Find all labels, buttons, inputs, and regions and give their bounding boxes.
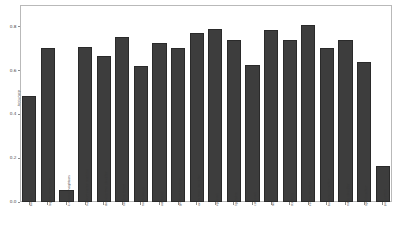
x-tick-label: decision tree classifier	[104, 171, 108, 206]
bar[interactable]	[134, 66, 148, 202]
x-tick-label: lightgbm	[234, 192, 238, 206]
bar-slot	[227, 5, 241, 202]
x-tick-label: gradient boosting	[178, 179, 182, 206]
x-tick-label: perceptron	[383, 189, 387, 206]
bar[interactable]	[283, 40, 297, 202]
bar[interactable]	[208, 29, 222, 202]
bar-slot	[152, 5, 166, 202]
x-tick-label: stacking	[290, 193, 294, 206]
bar-slot	[115, 5, 129, 202]
x-tick-label: support vector machine	[85, 169, 89, 206]
bar-series	[20, 5, 392, 202]
bar[interactable]	[115, 37, 129, 202]
bar-slot	[357, 5, 371, 202]
y-tick-label: 0.6	[10, 68, 17, 73]
bar-slot	[245, 5, 259, 202]
bar-slot	[190, 5, 204, 202]
x-tick-label: bagging classifier	[327, 179, 331, 206]
x-tick-label: naive bayes	[141, 187, 145, 206]
x-tick-label: baseline	[29, 193, 33, 206]
y-tick-label: 0.4	[10, 111, 17, 116]
x-tick-label: ridge classifier	[346, 183, 350, 206]
bar[interactable]	[338, 40, 352, 202]
x-tick-label: catboost	[253, 193, 257, 206]
x-tick-label: logistic regression	[48, 178, 52, 206]
bar[interactable]	[245, 65, 259, 202]
x-tick-label: random forest	[122, 184, 126, 206]
x-tick-label: voting classifier	[308, 182, 312, 206]
x-tick-label: sgd classifier	[364, 186, 368, 206]
y-tick-label: 0.8	[10, 24, 17, 29]
bar[interactable]	[264, 30, 278, 202]
x-axis: baselinelogistic regressionk-nearest nei…	[20, 202, 392, 242]
bar-slot	[320, 5, 334, 202]
bar-slot	[134, 5, 148, 202]
x-tick-label: xgboost	[215, 194, 219, 206]
bar[interactable]	[22, 96, 36, 202]
bar-slot	[301, 5, 315, 202]
x-tick-label: mlp	[271, 200, 275, 206]
y-tick-label: 0.2	[10, 155, 17, 160]
bar-slot	[22, 5, 36, 202]
bar-slot	[171, 5, 185, 202]
bar[interactable]	[357, 62, 371, 202]
bar-slot	[208, 5, 222, 202]
bar-slot	[264, 5, 278, 202]
y-tick-label: 0.0	[10, 199, 17, 204]
x-tick-label: extra trees classifier	[197, 174, 201, 206]
bar-slot	[376, 5, 390, 202]
bar[interactable]	[227, 40, 241, 202]
bar-slot	[59, 5, 73, 202]
x-tick-label: k-nearest neighbors	[67, 175, 71, 206]
bar-slot	[338, 5, 352, 202]
chart-root: Accuracy 0.00.20.40.60.8 baselinelogisti…	[0, 0, 405, 242]
bar-slot	[283, 5, 297, 202]
x-tick-label: adaboost	[160, 192, 164, 206]
bar-slot	[41, 5, 55, 202]
bar[interactable]	[301, 25, 315, 202]
bar[interactable]	[152, 43, 166, 202]
